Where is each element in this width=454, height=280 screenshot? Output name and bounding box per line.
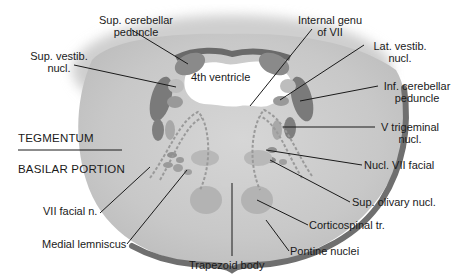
label-internal-genu-vii: Internal genu of VII	[280, 14, 380, 38]
label-line: V trigeminal	[370, 121, 450, 133]
label-nucl-vii-facial: Nucl. VII facial	[364, 159, 434, 171]
pons-cross-section-diagram: Sup. cerebellar peduncle Sup. vestib. nu…	[0, 0, 454, 280]
label-pontine-nuclei: Pontine nuclei	[290, 245, 359, 257]
label-line: Sup. vestib.	[14, 50, 104, 62]
label-line: of VII	[280, 26, 380, 38]
label-4th-ventricle: 4th ventricle	[191, 71, 250, 83]
label-line: nucl.	[360, 52, 440, 64]
label-sup-cerebellar-peduncle: Sup. cerebellar peduncle	[68, 14, 204, 38]
right-v-trigeminal-nucl	[284, 117, 296, 139]
right-lat-vestib-nucl	[273, 96, 289, 106]
region-label-basilar: BASILAR PORTION	[18, 163, 125, 175]
left-v-trigeminal-nucl-2	[165, 120, 175, 140]
label-line: Internal genu	[280, 14, 380, 26]
label-sup-vestib-nucl: Sup. vestib. nucl.	[14, 50, 104, 74]
left-lat-vestib-nucl	[167, 96, 183, 108]
label-line: nucl.	[370, 133, 450, 145]
left-corticospinal-tr	[190, 186, 222, 214]
label-line: Sup. cerebellar	[68, 14, 204, 26]
label-line: Lat. vestib.	[360, 40, 440, 52]
label-vii-facial-n: VII facial n.	[43, 205, 97, 217]
right-medial-lemniscus	[244, 150, 272, 166]
label-sup-olivary-nucl: Sup. olivary nucl.	[352, 196, 436, 208]
label-corticospinal-tr: Corticospinal tr.	[309, 219, 385, 231]
label-medial-lemniscus: Medial lemniscus	[42, 238, 126, 250]
label-line: peduncle	[68, 26, 204, 38]
label-v-trigeminal-nucl: V trigeminal nucl.	[370, 121, 450, 145]
label-lat-vestib-nucl: Lat. vestib. nucl.	[360, 40, 440, 64]
label-line: peduncle	[378, 92, 454, 104]
label-inf-cerebellar-peduncle: Inf. cerebellar peduncle	[378, 80, 454, 104]
label-trapezoid-body: Trapezoid body	[189, 259, 264, 271]
region-label-tegmentum: TEGMENTUM	[18, 132, 94, 144]
left-v-trigeminal-nucl	[152, 119, 164, 141]
label-line: Inf. cerebellar	[378, 80, 454, 92]
label-line: nucl.	[14, 62, 104, 74]
left-medial-lemniscus	[191, 150, 219, 166]
